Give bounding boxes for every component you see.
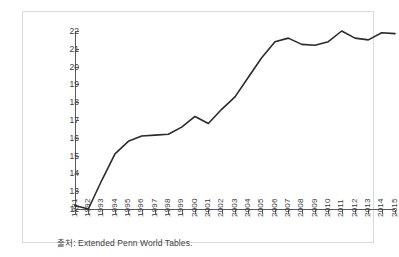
source-note: 출처: Extended Penn World Tables. <box>57 236 193 248</box>
chart-frame: 1213141516171819202122 19911992199319941… <box>22 11 374 243</box>
line-series <box>75 31 395 209</box>
figure-title-clipped <box>0 0 396 11</box>
plot-area <box>75 31 395 209</box>
